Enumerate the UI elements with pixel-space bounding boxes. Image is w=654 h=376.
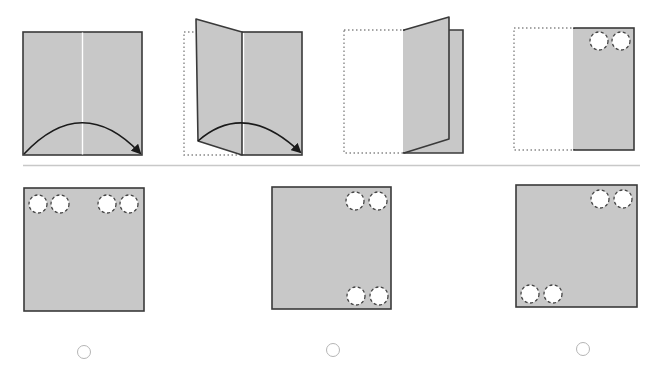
option-b-radio[interactable]: Option B: two holes top-right and two ho… <box>326 343 340 357</box>
paper-right-half <box>242 32 302 155</box>
hole-icon <box>614 190 632 208</box>
punched-hole-icon <box>590 32 608 50</box>
step-3-nearly-folded <box>344 17 463 153</box>
hole-icon <box>51 195 69 213</box>
option-b-figure <box>272 187 391 309</box>
step-1-flat-paper <box>23 32 142 155</box>
hole-icon <box>346 192 364 210</box>
original-outline-dotted <box>514 28 574 150</box>
hole-icon <box>591 190 609 208</box>
hole-icon <box>29 195 47 213</box>
hole-icon <box>544 285 562 303</box>
puzzle-canvas <box>0 0 654 376</box>
hole-icon <box>369 192 387 210</box>
punched-hole-icon <box>612 32 630 50</box>
option-a-radio[interactable]: Option A: four holes across the top edge… <box>77 345 91 359</box>
hole-icon <box>98 195 116 213</box>
hole-icon <box>347 287 365 305</box>
hole-icon <box>120 195 138 213</box>
paper-left-flap <box>196 19 242 155</box>
original-outline-dotted <box>344 30 404 153</box>
option-a-figure <box>24 188 144 311</box>
hole-icon <box>521 285 539 303</box>
option-c-radio[interactable]: Option C: two holes top-right and two ho… <box>576 342 590 356</box>
hole-icon <box>370 287 388 305</box>
step-4-punched <box>514 28 634 150</box>
option-c-figure <box>516 185 637 307</box>
step-2-folding <box>184 19 302 155</box>
paper-left-flap <box>404 17 449 153</box>
